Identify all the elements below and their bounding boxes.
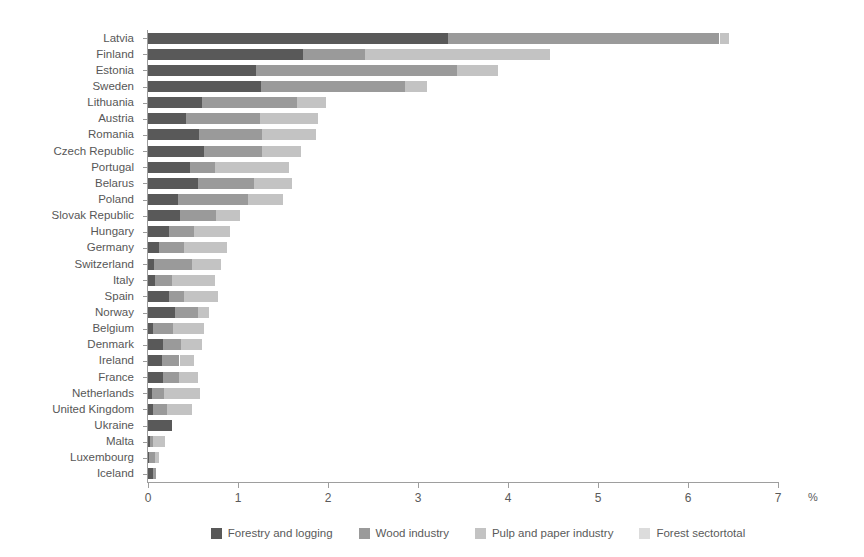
- bar-segment: [148, 129, 199, 140]
- y-axis-label: Iceland: [97, 467, 134, 480]
- legend-item[interactable]: Forestry and logging: [211, 527, 333, 539]
- y-axis-category-labels: LatviaFinlandEstoniaSwedenLithuaniaAustr…: [0, 30, 142, 482]
- y-axis-label: Netherlands: [72, 387, 134, 400]
- bar-segment: [154, 259, 192, 270]
- y-axis-tick: [143, 264, 148, 265]
- bar-segment: [260, 113, 319, 124]
- y-axis-label: Denmark: [87, 338, 134, 351]
- bar-segment: [163, 339, 181, 350]
- bar-segment: [720, 33, 729, 44]
- bar-segment: [148, 49, 303, 60]
- bar-segment: [159, 242, 184, 253]
- y-axis-label: Sweden: [92, 80, 134, 93]
- legend-item[interactable]: Pulp and paper industry: [475, 527, 613, 539]
- legend-swatch-icon: [211, 528, 222, 539]
- bar-segment: [148, 291, 169, 302]
- bar-segment: [148, 355, 162, 366]
- bar-segment: [163, 372, 178, 383]
- bar-segment: [179, 372, 199, 383]
- y-axis-tick: [143, 361, 148, 362]
- y-axis-label: Germany: [87, 241, 134, 254]
- y-axis-label: Ireland: [99, 354, 134, 367]
- y-axis-label: Italy: [113, 274, 134, 287]
- bar-segment: [173, 323, 204, 334]
- y-axis-label: Malta: [106, 435, 134, 448]
- bar-segment: [180, 355, 194, 366]
- legend-label: Wood industry: [376, 527, 449, 539]
- y-axis-label: Slovak Republic: [52, 209, 134, 222]
- y-axis-label: Luxembourg: [70, 451, 134, 464]
- legend-item[interactable]: Wood industry: [359, 527, 449, 539]
- bar-segment: [148, 33, 448, 44]
- bar-segment: [148, 81, 261, 92]
- bar-segment: [148, 65, 256, 76]
- y-axis-tick: [143, 248, 148, 249]
- bar-segment: [153, 436, 165, 447]
- y-axis-tick: [143, 119, 148, 120]
- x-axis-tick: [598, 483, 599, 488]
- legend-swatch-icon: [639, 528, 650, 539]
- bar-segment: [202, 97, 297, 108]
- bar-segment: [215, 162, 290, 173]
- bar-segment: [155, 452, 159, 463]
- y-axis-label: United Kingdom: [52, 403, 134, 416]
- bar-segment: [172, 275, 215, 286]
- legend-item[interactable]: Forest sectortotal: [639, 527, 745, 539]
- bar-segment: [164, 388, 200, 399]
- forest-sector-employment-chart: LatviaFinlandEstoniaSwedenLithuaniaAustr…: [0, 0, 864, 557]
- bar-segment: [148, 275, 155, 286]
- bar-segment: [194, 226, 230, 237]
- y-axis-tick: [143, 232, 148, 233]
- y-axis-label: Portugal: [91, 161, 134, 174]
- y-axis-label: Latvia: [103, 32, 134, 45]
- bar-segment: [148, 339, 163, 350]
- y-axis-tick: [143, 38, 148, 39]
- x-axis-tick-label: 7: [775, 491, 782, 505]
- y-axis-tick: [143, 329, 148, 330]
- y-axis-label: Hungary: [91, 225, 134, 238]
- bar-segment: [148, 242, 159, 253]
- y-axis-label: Austria: [98, 112, 134, 125]
- bar-segment: [153, 323, 173, 334]
- y-axis-tick: [143, 200, 148, 201]
- bar-segment: [181, 339, 202, 350]
- bar-segment: [262, 129, 316, 140]
- plot-area: [148, 30, 778, 482]
- bar-segment: [248, 194, 283, 205]
- bar-segment: [148, 194, 178, 205]
- bar-segment: [297, 97, 327, 108]
- legend-label: Forest sectortotal: [656, 527, 745, 539]
- x-axis-tick: [238, 483, 239, 488]
- legend-swatch-icon: [475, 528, 486, 539]
- bar-segment: [405, 81, 428, 92]
- y-axis-tick: [143, 426, 148, 427]
- y-axis-label: Estonia: [96, 64, 134, 77]
- legend-swatch-icon: [359, 528, 370, 539]
- x-axis-tick: [148, 483, 149, 488]
- y-axis-label: Czech Republic: [53, 145, 134, 158]
- bar-segment: [365, 49, 550, 60]
- x-axis-tick: [778, 483, 779, 488]
- bar-segment: [153, 404, 167, 415]
- bar-segment: [169, 291, 184, 302]
- y-axis-tick: [143, 70, 148, 71]
- bar-segment: [198, 307, 209, 318]
- bar-segment: [169, 226, 194, 237]
- bar-segment: [216, 210, 240, 221]
- bar-segment: [186, 113, 260, 124]
- bar-segment: [198, 178, 255, 189]
- bar-segment: [261, 81, 405, 92]
- bar-segment: [199, 129, 262, 140]
- y-axis-tick: [143, 409, 148, 410]
- bar-segment: [162, 355, 179, 366]
- x-axis-tick-label: 3: [415, 491, 422, 505]
- bar-segment: [262, 146, 301, 157]
- x-axis-tick-label: 6: [685, 491, 692, 505]
- bar-segment: [148, 97, 202, 108]
- y-axis-tick: [143, 103, 148, 104]
- y-axis-tick: [143, 377, 148, 378]
- bar-segment: [153, 468, 157, 479]
- bar-segment: [148, 420, 172, 431]
- x-axis-line: [148, 482, 779, 483]
- bar-segment: [448, 33, 720, 44]
